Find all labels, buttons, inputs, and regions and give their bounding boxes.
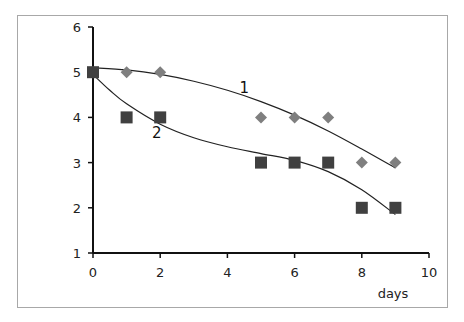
square-marker (87, 66, 99, 78)
cropped-caption (0, 314, 464, 322)
x-tick-label: 0 (89, 265, 97, 280)
square-marker (356, 202, 368, 214)
diamond-marker (255, 111, 267, 123)
y-tick-label: 3 (73, 156, 81, 171)
y-tick-label: 2 (73, 201, 81, 216)
diamond-marker (154, 66, 166, 78)
square-marker (289, 157, 301, 169)
square-marker (322, 157, 334, 169)
scatter-plot: 1234560246810days12 (0, 0, 464, 322)
diamond-marker (322, 111, 334, 123)
y-tick-label: 6 (73, 20, 81, 35)
diamond-marker (121, 66, 133, 78)
y-tick-label: 5 (73, 65, 81, 80)
x-axis-label: days (378, 286, 409, 301)
diamond-marker (356, 157, 368, 169)
y-tick-label: 1 (73, 246, 81, 261)
x-tick-label: 2 (156, 265, 164, 280)
curve-label-2: 2 (152, 124, 162, 142)
square-marker (154, 111, 166, 123)
x-tick-label: 4 (223, 265, 231, 280)
curve-label-1: 1 (239, 79, 249, 97)
y-tick-label: 4 (73, 110, 81, 125)
square-marker (121, 111, 133, 123)
square-marker (255, 157, 267, 169)
x-tick-label: 10 (421, 265, 438, 280)
square-marker (389, 202, 401, 214)
x-tick-label: 6 (290, 265, 298, 280)
x-tick-label: 8 (358, 265, 366, 280)
diamond-marker (389, 157, 401, 169)
